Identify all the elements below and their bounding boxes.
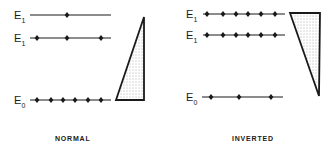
population-triangle	[290, 13, 320, 96]
level-subscript: 1	[22, 17, 26, 24]
panel-normal: E1E1E0NORMAL	[14, 9, 144, 142]
particle-dot	[237, 94, 242, 100]
level-subscript: 1	[22, 40, 26, 47]
level-label: E	[186, 8, 193, 20]
particle-dot	[86, 97, 91, 103]
energy-level-E1: E1	[186, 29, 285, 44]
particle-dot	[99, 35, 104, 41]
level-label: E	[14, 9, 21, 21]
population-inversion-diagram: E1E1E0NORMALE1E1E0INVERTED	[0, 0, 334, 148]
level-subscript: 1	[194, 37, 198, 44]
particle-dot	[205, 32, 210, 38]
level-label: E	[186, 29, 193, 41]
particle-dot	[65, 12, 70, 18]
particle-dot	[205, 11, 210, 17]
particle-dot	[259, 32, 264, 38]
level-subscript: 0	[194, 99, 198, 106]
particle-dot	[221, 32, 226, 38]
particle-dot	[273, 32, 278, 38]
particle-dot	[209, 94, 214, 100]
particle-dot	[61, 97, 66, 103]
particle-dot	[99, 97, 104, 103]
particle-dot	[35, 35, 40, 41]
particle-dot	[269, 94, 274, 100]
population-triangle	[116, 17, 144, 100]
energy-level-E1: E1	[14, 9, 111, 24]
panel-caption: INVERTED	[232, 135, 274, 142]
level-label: E	[14, 32, 21, 44]
particle-dot	[259, 11, 264, 17]
panel-inverted: E1E1E0INVERTED	[186, 8, 320, 142]
energy-level-E1: E1	[14, 32, 111, 47]
energy-level-E0: E0	[186, 91, 283, 106]
particle-dot	[65, 35, 70, 41]
particle-dot	[73, 97, 78, 103]
particle-dot	[221, 11, 226, 17]
level-subscript: 1	[194, 16, 198, 23]
particle-dot	[246, 32, 251, 38]
panel-caption: NORMAL	[55, 135, 91, 142]
energy-level-E0: E0	[14, 94, 111, 109]
level-subscript: 0	[22, 102, 26, 109]
particle-dot	[234, 32, 239, 38]
particle-dot	[234, 11, 239, 17]
particle-dot	[35, 97, 40, 103]
particle-dot	[49, 97, 54, 103]
level-label: E	[14, 94, 21, 106]
level-label: E	[186, 91, 193, 103]
energy-level-E1: E1	[186, 8, 285, 23]
particle-dot	[246, 11, 251, 17]
particle-dot	[273, 11, 278, 17]
